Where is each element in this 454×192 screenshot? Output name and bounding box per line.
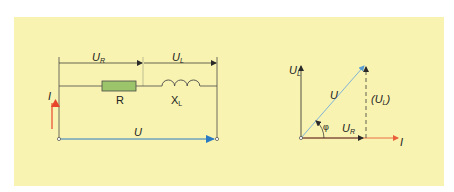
phase-angle-label: φ — [323, 122, 329, 132]
ul-axis-label: UL — [289, 64, 301, 77]
ul-phasor-label: (UL) — [371, 93, 391, 106]
resistor-symbol — [102, 81, 136, 91]
ur-label: UR — [92, 51, 105, 64]
total-voltage-label: U — [134, 126, 142, 138]
inductor-label: XL — [171, 94, 182, 107]
terminal-left — [57, 137, 60, 140]
terminal-right — [215, 137, 218, 140]
ur-phasor-label: UR — [342, 122, 355, 135]
resistor-label: R — [116, 94, 124, 106]
inductor-symbol — [162, 80, 200, 86]
series-circuit: UR UL R XL I U — [48, 51, 219, 141]
current-label: I — [48, 90, 51, 102]
phasor-diagram: UL I U UR (UL) φ — [289, 64, 403, 148]
ul-label: UL — [172, 51, 184, 64]
current-axis-label: I — [400, 136, 403, 148]
phasor-origin — [299, 136, 302, 139]
rl-series-diagram: UR UL R XL I U UL I U UR (UL) φ — [0, 0, 454, 192]
u-resultant-label: U — [330, 89, 338, 101]
